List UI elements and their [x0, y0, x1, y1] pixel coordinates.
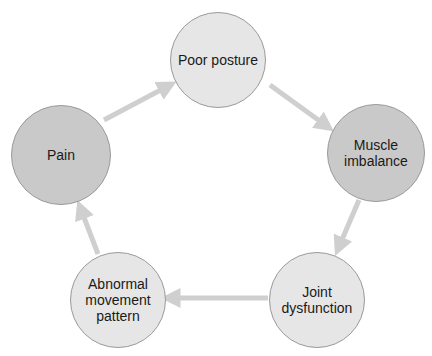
arrow-abnormal-movement-pattern-to-pain	[80, 207, 98, 254]
cycle-diagram: Poor postureMuscle imbalanceJoint dysfun…	[0, 0, 432, 356]
node-joint-dysfunction: Joint dysfunction	[269, 252, 365, 348]
node-label: Pain	[47, 147, 75, 163]
node-label: Poor posture	[178, 52, 258, 68]
node-label: Muscle imbalance	[344, 137, 408, 169]
node-muscle-imbalance: Muscle imbalance	[327, 104, 425, 202]
node-poor-posture: Poor posture	[170, 12, 266, 108]
arrow-muscle-imbalance-to-joint-dysfunction	[338, 200, 359, 249]
node-pain: Pain	[11, 105, 111, 205]
node-abnormal-movement-pattern: Abnormal movement pattern	[70, 252, 166, 348]
arrow-poor-posture-to-muscle-imbalance	[270, 85, 328, 127]
node-label: Abnormal movement pattern	[85, 276, 150, 324]
arrow-pain-to-poor-posture	[104, 85, 170, 120]
node-label: Joint dysfunction	[282, 284, 353, 316]
